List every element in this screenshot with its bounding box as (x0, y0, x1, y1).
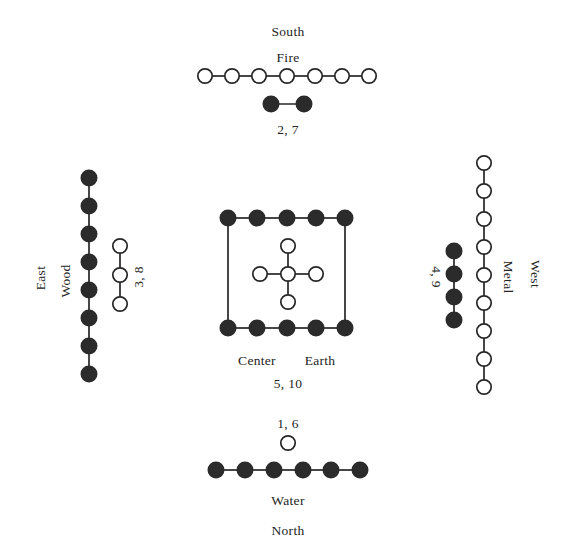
fire-yang-node-yang (335, 69, 349, 83)
label-south: South (271, 25, 304, 39)
wood-yang-node-yang (113, 297, 127, 311)
metal-yang-node-yang (477, 352, 491, 366)
water-yin-node-yin (323, 462, 339, 478)
earth-yin-node (279, 210, 295, 226)
water-yin-node-yin (352, 462, 368, 478)
label-water: Water (271, 494, 304, 508)
metal-yin-node-yin (446, 312, 462, 328)
fire-yang-node-yang (362, 69, 376, 83)
label-metal: Metal (501, 261, 515, 294)
metal-yang-node-yang (477, 324, 491, 338)
wood-yin-node-yin (81, 310, 97, 326)
wuxing-hetu-diagram: South Fire 2, 7 East Wood 3, 8 West Meta… (0, 0, 574, 560)
metal-yang-node-yang (477, 240, 491, 254)
label-metal-numbers: 4, 9 (429, 266, 443, 287)
water-yin-node-yin (266, 462, 282, 478)
water-yin-node-yin (208, 462, 224, 478)
earth-yin-node (220, 210, 236, 226)
earth-yang-node (309, 267, 323, 281)
label-water-numbers: 1, 6 (277, 417, 298, 431)
earth-yang-node (253, 267, 267, 281)
earth-yang-node (281, 239, 295, 253)
label-center: Center (238, 354, 276, 368)
earth-yin-node (279, 320, 295, 336)
wood-yang-node-yang (113, 268, 127, 282)
metal-yin-node-yin (446, 243, 462, 259)
fire-yang-node-yang (252, 69, 266, 83)
label-north: North (272, 524, 305, 538)
label-wood-numbers: 3, 8 (132, 266, 146, 287)
metal-yang-node-yang (477, 268, 491, 282)
metal-yang-node-yang (477, 296, 491, 310)
metal-yin-node-yin (446, 289, 462, 305)
wood-yin-node-yin (81, 170, 97, 186)
earth-yin-node (337, 210, 353, 226)
metal-yin-node-yin (446, 266, 462, 282)
water-yin-node-yin (295, 462, 311, 478)
fire-yang-node-yang (198, 69, 212, 83)
label-earth-numbers: 5, 10 (274, 377, 303, 391)
label-west: West (528, 260, 542, 288)
diagram-canvas (0, 0, 574, 560)
wood-yin-node-yin (81, 366, 97, 382)
wood-yin-node-yin (81, 198, 97, 214)
water-yang-node (281, 436, 295, 450)
wood-yang-node-yang (113, 239, 127, 253)
label-east: East (34, 266, 48, 290)
fire-yang-node-yang (280, 69, 294, 83)
metal-yang-node-yang (477, 212, 491, 226)
fire-yang-node-yang (225, 69, 239, 83)
metal-yang-node-yang (477, 380, 491, 394)
earth-yin-node (308, 210, 324, 226)
earth-yang-node (281, 267, 295, 281)
label-fire-numbers: 2, 7 (277, 123, 298, 137)
wood-yin-node-yin (81, 254, 97, 270)
earth-yin-node (220, 320, 236, 336)
label-earth: Earth (305, 354, 336, 368)
earth-yin-node (337, 320, 353, 336)
earth-yin-node (249, 320, 265, 336)
fire-yin-node-yin (296, 96, 312, 112)
earth-yin-node (308, 320, 324, 336)
label-fire: Fire (277, 51, 300, 65)
wood-yin-node-yin (81, 338, 97, 354)
metal-yang-node-yang (477, 184, 491, 198)
wood-yin-node-yin (81, 282, 97, 298)
metal-yang-node-yang (477, 156, 491, 170)
label-wood: Wood (59, 264, 73, 297)
earth-yin-node (249, 210, 265, 226)
wood-yin-node-yin (81, 226, 97, 242)
fire-yin-node-yin (263, 96, 279, 112)
fire-yang-node-yang (308, 69, 322, 83)
earth-yang-node (281, 295, 295, 309)
water-yin-node-yin (237, 462, 253, 478)
